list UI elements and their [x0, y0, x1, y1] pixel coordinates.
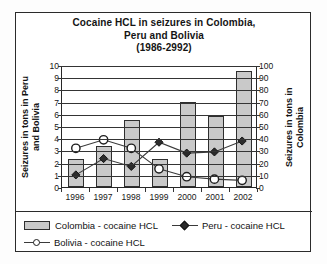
axis-tick-label: 8: [43, 85, 59, 95]
axis-tickmark: [58, 176, 62, 177]
plot-area-wrapper: Seizures in tons in Peru and Bolivia Sei…: [16, 61, 312, 209]
legend-item-colombia[interactable]: Colombia - cocaine HCL: [24, 220, 158, 231]
chart-frame: Cocaine HCL in seizures in Colombia, Per…: [15, 12, 311, 252]
gridline: [62, 176, 256, 177]
chart-page: Cocaine HCL in seizures in Colombia, Per…: [0, 0, 327, 264]
diamond-marker-icon: [172, 221, 198, 231]
axis-tick-label: 70: [259, 98, 275, 108]
axis-tickmark: [58, 103, 62, 104]
axis-tick-label: 10: [43, 61, 59, 71]
chart-title-line-1: Cocaine HCL in seizures in Colombia,: [16, 17, 312, 30]
axis-tick-label: 80: [259, 85, 275, 95]
x-axis-tick-label: 2000: [173, 192, 201, 202]
axis-tickmark: [58, 139, 62, 140]
circle-marker-icon: [24, 238, 50, 248]
axis-tickmark: [256, 115, 260, 116]
bar-swatch-icon: [24, 221, 50, 230]
axis-tickmark: [58, 115, 62, 116]
x-axis-tick-label: 1997: [89, 192, 117, 202]
y-axis-right-title: Seizures in tons in Colombia: [284, 67, 306, 187]
legend-label-colombia: Colombia - cocaine HCL: [55, 220, 158, 231]
axis-tickmark: [58, 127, 62, 128]
gridline: [62, 151, 256, 152]
chart-legend: Colombia - cocaine HCL Peru - cocaine HC…: [16, 211, 312, 251]
gridline: [62, 139, 256, 140]
axis-tick-label: 5: [43, 122, 59, 132]
legend-item-peru[interactable]: Peru - cocaine HCL: [172, 220, 285, 231]
data-point-diamond: [100, 154, 108, 162]
x-axis-tick-label: 1999: [145, 192, 173, 202]
gridline: [62, 78, 256, 79]
legend-item-bolivia[interactable]: Bolivia - cocaine HCL: [24, 237, 145, 248]
x-axis-tick-label: 1996: [61, 192, 89, 202]
gridline: [62, 127, 256, 128]
chart-title: Cocaine HCL in seizures in Colombia, Per…: [16, 17, 312, 55]
legend-row-2: Bolivia - cocaine HCL: [24, 234, 312, 251]
data-point-diamond: [183, 149, 191, 157]
axis-tick-label: 0: [259, 183, 275, 193]
axis-tickmark: [58, 151, 62, 152]
gridline: [62, 103, 256, 104]
x-axis-labels: 1996199719981999200020012002: [61, 192, 257, 206]
gridline: [62, 66, 256, 67]
axis-tick-label: 40: [259, 134, 275, 144]
axis-tick-label: 0: [43, 183, 59, 193]
x-axis-tick-label: 2002: [229, 192, 257, 202]
axis-tick-label: 9: [43, 73, 59, 83]
gridline: [62, 115, 256, 116]
chart-title-line-3: (1986-2992): [16, 42, 312, 55]
axis-tickmark: [256, 78, 260, 79]
plot-area: [61, 66, 257, 188]
axis-tick-label: 90: [259, 73, 275, 83]
axis-tickmark: [58, 164, 62, 165]
axis-tick-label: 6: [43, 110, 59, 120]
axis-tickmark: [256, 176, 260, 177]
axis-tickmark: [58, 66, 62, 67]
axis-tickmark: [256, 139, 260, 140]
gridline: [62, 164, 256, 165]
axis-tick-label: 2: [43, 159, 59, 169]
chart-title-line-2: Peru and Bolivia: [16, 30, 312, 43]
axis-tickmark: [256, 103, 260, 104]
axis-tick-label: 50: [259, 122, 275, 132]
axis-tickmark: [58, 90, 62, 91]
axis-tick-label: 60: [259, 110, 275, 120]
axis-tickmark: [58, 78, 62, 79]
x-axis-tickmark: [257, 188, 258, 192]
legend-label-peru: Peru - cocaine HCL: [202, 220, 285, 231]
data-point-circle: [238, 176, 246, 184]
axis-tickmark: [256, 66, 260, 67]
axis-tickmark: [256, 164, 260, 165]
gridline: [62, 90, 256, 91]
data-point-diamond: [238, 137, 246, 145]
axis-tick-label: 20: [259, 159, 275, 169]
data-point-circle: [155, 165, 163, 173]
axis-tick-label: 30: [259, 146, 275, 156]
x-axis-tick-label: 2001: [201, 192, 229, 202]
axis-tickmark: [256, 90, 260, 91]
y-axis-left-title: Seizures in tons in Peru and Bolivia: [20, 67, 42, 187]
axis-tickmark: [256, 151, 260, 152]
axis-tick-label: 100: [259, 61, 275, 71]
legend-label-bolivia: Bolivia - cocaine HCL: [54, 237, 145, 248]
axis-tick-label: 3: [43, 146, 59, 156]
axis-tick-label: 1: [43, 171, 59, 181]
axis-tick-label: 10: [259, 171, 275, 181]
axis-tick-label: 4: [43, 134, 59, 144]
axis-tickmark: [256, 127, 260, 128]
x-axis-tick-label: 1998: [117, 192, 145, 202]
legend-row-1: Colombia - cocaine HCL Peru - cocaine HC…: [24, 217, 312, 234]
axis-tick-label: 7: [43, 98, 59, 108]
